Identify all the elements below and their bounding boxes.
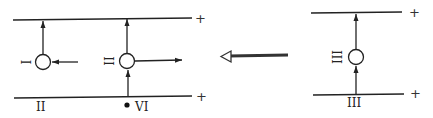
node-side-label: II <box>103 56 117 66</box>
node-side-label: III <box>331 50 345 64</box>
node-1: I <box>20 21 78 70</box>
node-circle <box>120 54 135 69</box>
arrow-right-icon <box>135 60 182 61</box>
node-2: II <box>103 19 182 96</box>
diagram-canvas: + + I II II VI + + <box>0 0 433 118</box>
bottom-label-ii: II <box>36 100 46 114</box>
transition-arrow-icon <box>221 51 288 62</box>
left-bottom-plus: + <box>196 89 207 104</box>
node-side-label: I <box>20 59 34 64</box>
left-top-line <box>13 18 192 20</box>
right-top-line <box>311 12 402 13</box>
right-bottom-plus: + <box>410 86 421 101</box>
left-bottom-line <box>14 96 192 98</box>
left-panel: + + I II II VI <box>13 11 207 114</box>
bottom-label-vi: VI <box>134 100 149 114</box>
node-3: III <box>331 14 364 94</box>
node-circle <box>349 50 364 65</box>
right-top-plus: + <box>409 5 420 20</box>
bottom-label-iii: III <box>347 96 361 110</box>
dot-marker-icon <box>124 102 129 107</box>
left-top-plus: + <box>195 11 206 26</box>
right-bottom-line <box>313 94 404 95</box>
right-panel: + + III III <box>311 5 421 110</box>
node-circle <box>36 55 51 70</box>
